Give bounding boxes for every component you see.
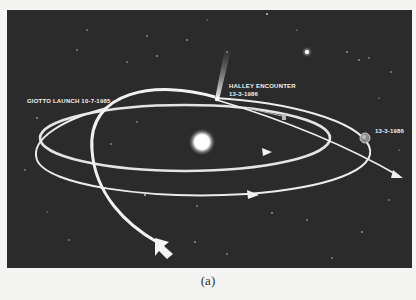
giotto-halley-diagram: GIOTTO LAUNCH 10-7-1985 HALLEY ENCOUNTER… <box>7 10 412 268</box>
figure-caption: (a) <box>0 273 416 289</box>
launch-label: GIOTTO LAUNCH 10-7-1985 <box>27 98 111 105</box>
sun-icon <box>188 128 216 156</box>
orbit-diagram-svg <box>7 10 412 268</box>
giotto-outbound-arrow <box>391 170 403 178</box>
encounter-label-line2: 13-3-1986 <box>229 91 258 98</box>
comet-orbit-arrow <box>247 190 259 199</box>
bright-star-icon <box>301 46 313 58</box>
earth-date-label: 13-3-1986 <box>375 128 404 135</box>
earth-orbit-arrow <box>262 148 272 156</box>
spacecraft-marker-icon <box>282 114 286 120</box>
earth-icon <box>360 133 370 143</box>
encounter-label-line1: HALLEY ENCOUNTER <box>229 83 296 90</box>
launch-arrow-icon <box>155 238 173 259</box>
